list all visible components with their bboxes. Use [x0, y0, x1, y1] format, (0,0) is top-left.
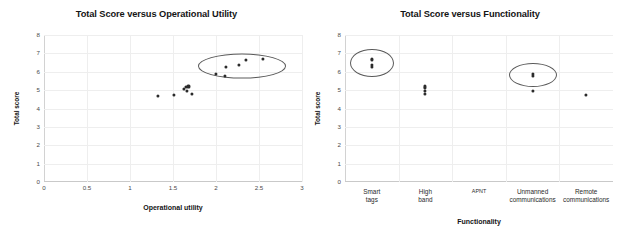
- y-tick-label: 6: [338, 69, 341, 75]
- x-tick-label: 2.5: [255, 185, 264, 191]
- gridline-vertical: [302, 35, 303, 182]
- gridline-horizontal: [345, 164, 613, 165]
- y-tick-label: 6: [37, 69, 40, 75]
- x-axis-title-left: Operational utility: [44, 204, 302, 211]
- y-axis-title-left: Total score: [13, 78, 20, 138]
- x-tick-label: 1: [128, 185, 131, 191]
- category-label-line: communications: [510, 196, 556, 204]
- y-tick-label: 7: [338, 50, 341, 56]
- gridline-horizontal: [345, 182, 613, 183]
- gridline-horizontal: [345, 127, 613, 128]
- category-label-1: Highband: [418, 188, 432, 204]
- plot-area-operational-utility: 01234567800.511.522.53: [44, 35, 302, 182]
- x-tick-label: 0: [42, 185, 45, 191]
- category-label-4: Remotecommunications: [563, 188, 609, 204]
- y-tick-label: 3: [338, 124, 341, 130]
- gridline-vertical: [44, 35, 45, 182]
- y-tick-label: 8: [338, 32, 341, 38]
- chart-title-operational-utility: Total Score versus Operational Utility: [0, 9, 313, 19]
- category-label-line: tags: [363, 196, 380, 204]
- y-tick-label: 5: [37, 87, 40, 93]
- y-tick-label: 5: [338, 87, 341, 93]
- data-point: [185, 89, 188, 92]
- y-tick-label: 1: [37, 161, 40, 167]
- category-label-line: communications: [563, 196, 609, 204]
- gridline-vertical: [506, 35, 507, 182]
- y-tick-label: 0: [338, 179, 341, 185]
- category-label-line: Smart: [363, 188, 380, 196]
- gridline-horizontal: [345, 145, 613, 146]
- y-tick-label: 8: [37, 32, 40, 38]
- data-point: [187, 85, 190, 88]
- data-point: [157, 94, 160, 97]
- y-tick-label: 7: [37, 50, 40, 56]
- panel-operational-utility: Total Score versus Operational Utility T…: [0, 0, 313, 237]
- y-axis-title-right: Total score: [314, 78, 321, 138]
- x-tick-label: 1.5: [169, 185, 178, 191]
- y-tick-label: 4: [37, 105, 40, 111]
- annotation-ellipse-high-performer-cluster: [198, 54, 286, 79]
- category-label-line: APNT: [472, 188, 486, 195]
- y-tick-label: 2: [338, 142, 341, 148]
- category-label-0: Smarttags: [363, 188, 380, 204]
- gridline-vertical: [173, 35, 174, 182]
- category-label-2: APNT: [472, 188, 486, 195]
- y-tick-label: 3: [37, 124, 40, 130]
- x-tick-label: 0.5: [83, 185, 92, 191]
- category-label-line: Remote: [563, 188, 609, 196]
- gridline-vertical: [399, 35, 400, 182]
- plot-area-functionality: 012345678SmarttagsHighbandAPNTUnmannedco…: [345, 35, 613, 182]
- two-panel-scatter-figure: Total Score versus Operational Utility T…: [0, 0, 627, 237]
- gridline-horizontal: [345, 90, 613, 91]
- category-label-line: High: [418, 188, 432, 196]
- gridline-vertical: [559, 35, 560, 182]
- category-label-3: Unmannedcommunications: [510, 188, 556, 204]
- data-point: [190, 93, 193, 96]
- y-tick-label: 2: [37, 142, 40, 148]
- data-point: [424, 93, 427, 96]
- data-point: [531, 89, 534, 92]
- y-tick-label: 4: [338, 105, 341, 111]
- data-point: [585, 94, 588, 97]
- x-tick-label: 3: [300, 185, 303, 191]
- gridline-horizontal: [345, 35, 613, 36]
- y-tick-label: 0: [37, 179, 40, 185]
- gridline-horizontal: [345, 109, 613, 110]
- category-label-line: band: [418, 196, 432, 204]
- gridline-vertical: [130, 35, 131, 182]
- data-point: [172, 93, 175, 96]
- gridline-vertical: [452, 35, 453, 182]
- category-label-line: Unmanned: [510, 188, 556, 196]
- gridline-horizontal: [44, 182, 302, 183]
- x-tick-label: 2: [214, 185, 217, 191]
- y-tick-label: 1: [338, 161, 341, 167]
- x-axis-title-right: Functionality: [345, 218, 613, 225]
- gridline-vertical: [87, 35, 88, 182]
- chart-title-functionality: Total Score versus Functionality: [313, 9, 627, 19]
